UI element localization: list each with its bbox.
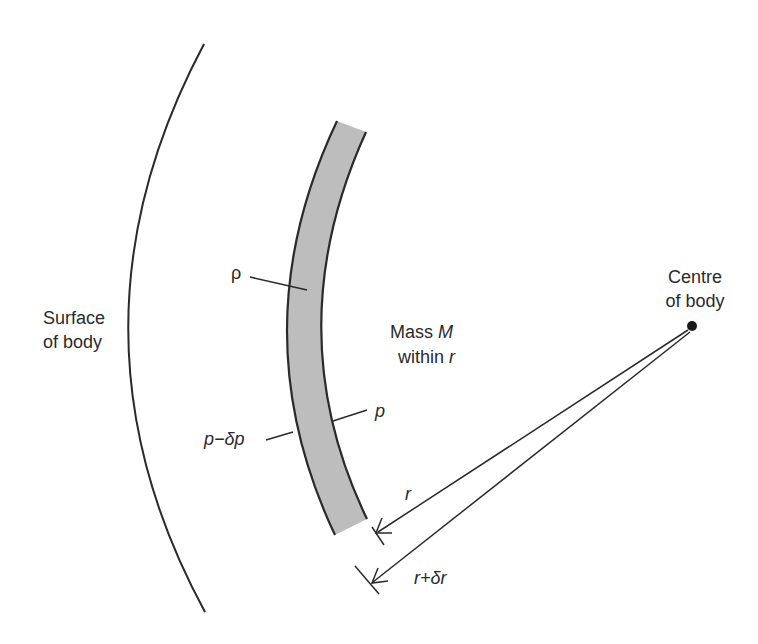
radius-symbol-within: r	[449, 347, 455, 367]
centre-label-line2: of body	[650, 290, 740, 312]
surface-label-line1: Surface	[43, 307, 105, 329]
pressure-outer-leader	[266, 432, 293, 440]
radius-label: r	[405, 483, 411, 505]
pressure-outer-label: p−δp	[204, 428, 245, 450]
radius-r-arrowhead	[376, 518, 392, 533]
diagram-canvas	[0, 0, 758, 644]
mass-label-line1: Mass M	[390, 321, 453, 343]
pressure-inner-label: p	[375, 400, 385, 422]
mass-symbol: M	[438, 322, 453, 342]
body-surface-arc	[128, 44, 205, 612]
within-label-prefix: within	[398, 347, 449, 367]
shell-region	[287, 121, 367, 535]
centre-dot	[687, 321, 697, 331]
mass-label-prefix: Mass	[390, 322, 438, 342]
density-label: ρ	[231, 262, 241, 284]
pressure-inner-leader	[333, 410, 367, 421]
radius-r-plus-dr-arrow	[373, 332, 690, 582]
radius-plus-dr-label: r+δr	[414, 567, 447, 589]
mass-label-line2: within r	[398, 346, 455, 368]
surface-label-line2: of body	[43, 331, 102, 353]
centre-label-line1: Centre	[650, 266, 740, 288]
